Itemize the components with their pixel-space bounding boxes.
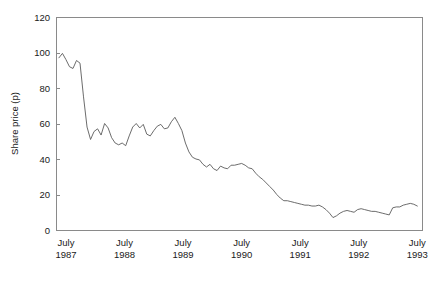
x-tick-label-year: 1990 <box>231 249 252 260</box>
x-tick-label-month: July <box>292 237 309 248</box>
y-tick-label: 80 <box>39 83 50 94</box>
x-tick-label-month: July <box>409 237 426 248</box>
share-price-line <box>59 53 417 217</box>
x-tick-label-year: 1988 <box>114 249 135 260</box>
x-tick-label-month: July <box>116 237 133 248</box>
y-axis-label: Share price (p) <box>9 92 20 155</box>
y-tick-label: 0 <box>45 225 50 236</box>
x-tick-label-month: July <box>175 237 192 248</box>
x-tick-label-month: July <box>233 237 250 248</box>
x-tick-label-year: 1989 <box>173 249 194 260</box>
axis-frame <box>56 17 422 230</box>
y-tick-label: 60 <box>39 118 50 129</box>
y-tick-label: 40 <box>39 154 50 165</box>
x-axis-tick-labels: July1987July1988July1989July1990July1991… <box>55 237 428 260</box>
x-tick-label-year: 1992 <box>348 249 369 260</box>
plot-frame <box>56 17 422 230</box>
chart-figure: 020406080100120 July1987July1988July1989… <box>0 0 435 281</box>
y-axis-tick-labels: 020406080100120 <box>34 12 50 236</box>
y-axis-tick-marks <box>56 18 60 231</box>
y-tick-label: 100 <box>34 47 50 58</box>
y-tick-label: 120 <box>34 12 50 23</box>
x-tick-label-month: July <box>58 237 75 248</box>
x-tick-label-year: 1991 <box>290 249 311 260</box>
x-tick-label-year: 1987 <box>55 249 76 260</box>
x-tick-label-month: July <box>350 237 367 248</box>
x-tick-label-year: 1993 <box>407 249 428 260</box>
y-axis-title: Share price (p) <box>9 92 20 155</box>
share-price-line-chart: 020406080100120 July1987July1988July1989… <box>0 0 435 281</box>
y-tick-label: 20 <box>39 189 50 200</box>
data-series-group <box>59 53 417 217</box>
